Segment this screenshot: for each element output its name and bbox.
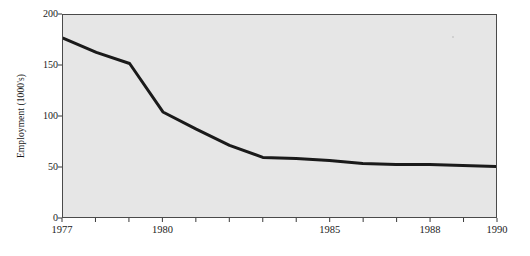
scan-artifact-speck xyxy=(452,36,454,38)
x-tick-label: 1985 xyxy=(308,224,352,236)
x-tick-label: 1990 xyxy=(475,224,519,236)
x-tick-label: 1980 xyxy=(140,224,184,236)
employment-line-chart: Employment (1000's) 050100150200 1977198… xyxy=(0,0,530,256)
x-tick-label: 1977 xyxy=(40,224,84,236)
x-tick-label: 1988 xyxy=(408,224,452,236)
x-tick-labels: 19771980198519881990 xyxy=(0,0,530,256)
